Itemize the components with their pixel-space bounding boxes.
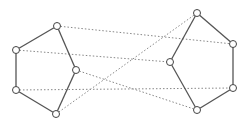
- solid-edge-C-A: [57, 26, 76, 70]
- dotted-edge-B-H: [16, 50, 170, 62]
- node-E: [53, 111, 60, 118]
- node-B: [13, 47, 20, 54]
- node-F: [194, 10, 201, 17]
- node-H: [167, 59, 174, 66]
- graph-diagram: [0, 0, 250, 125]
- node-D: [13, 87, 20, 94]
- node-A: [54, 23, 61, 30]
- dotted-edges: [16, 13, 233, 114]
- solid-edge-D-E: [16, 90, 56, 114]
- dotted-edge-D-I: [16, 88, 233, 90]
- solid-edges: [16, 13, 233, 114]
- node-I: [230, 85, 237, 92]
- dotted-edge-E-F: [56, 13, 197, 114]
- nodes: [13, 10, 237, 118]
- solid-edge-I-J: [197, 88, 233, 110]
- solid-edge-A-B: [16, 26, 57, 50]
- dotted-edge-A-G: [57, 26, 233, 44]
- node-J: [194, 107, 201, 114]
- solid-edge-J-H: [170, 62, 197, 110]
- solid-edge-H-F: [170, 13, 197, 62]
- solid-edge-F-G: [197, 13, 233, 44]
- dotted-edge-C-J: [76, 70, 197, 110]
- node-C: [73, 67, 80, 74]
- node-G: [230, 41, 237, 48]
